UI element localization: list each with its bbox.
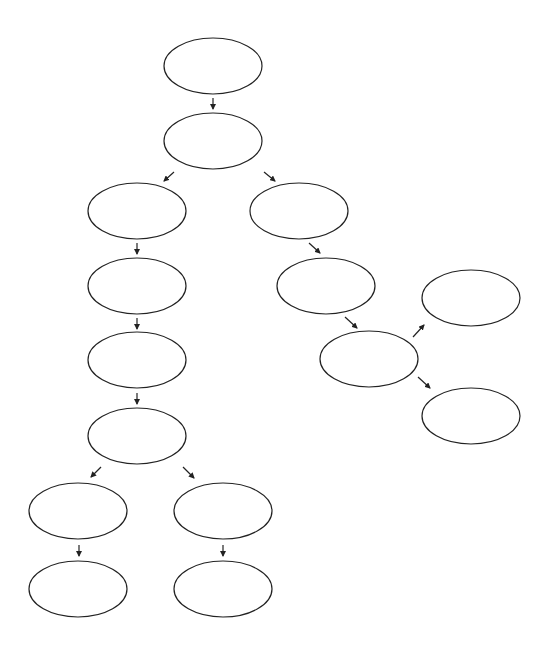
arrow-2-3 xyxy=(164,172,174,181)
node-3 xyxy=(88,183,186,239)
node-15 xyxy=(422,388,520,444)
flowchart-canvas xyxy=(0,0,548,653)
node-14 xyxy=(422,270,520,326)
node-5 xyxy=(88,258,186,314)
arrow-2-4 xyxy=(264,172,275,181)
arrow-4-12 xyxy=(309,243,320,253)
arrow-13-15 xyxy=(418,377,430,388)
arrow-13-14 xyxy=(413,325,424,337)
arrow-12-13 xyxy=(345,317,357,328)
node-13 xyxy=(320,331,418,387)
node-6 xyxy=(88,332,186,388)
node-2 xyxy=(164,113,262,169)
node-1 xyxy=(164,38,262,94)
node-7 xyxy=(88,408,186,464)
arrow-7-9 xyxy=(183,467,194,478)
node-11 xyxy=(174,561,272,617)
node-9 xyxy=(174,483,272,539)
arrow-7-8 xyxy=(91,467,101,477)
node-8 xyxy=(29,483,127,539)
node-4 xyxy=(250,183,348,239)
node-10 xyxy=(29,561,127,617)
node-12 xyxy=(277,258,375,314)
